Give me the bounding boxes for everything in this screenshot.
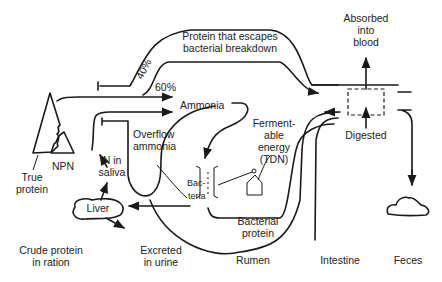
absorbed-label-3: blood	[353, 36, 379, 48]
absorbed-label-2: into	[358, 24, 375, 36]
urine-arrow	[106, 218, 124, 228]
escape-label-1: Protein that escapes	[182, 30, 278, 42]
bacteria-label-2: teria	[188, 191, 206, 201]
section-urine-1: Excreted	[140, 244, 182, 256]
absorbed-label-1: Absorbed	[344, 12, 389, 24]
bacteria-label-1: Bac-	[187, 178, 206, 188]
true-protein-label-1: True	[21, 171, 42, 183]
ammonia-to-bacteria	[205, 103, 248, 158]
bacterial-protein-label-1: Bacterial	[238, 215, 279, 227]
n-saliva-label-2: saliva	[99, 166, 126, 178]
section-ration-1: Crude protein	[19, 244, 83, 256]
escape-label-2: bacterial breakdown	[183, 42, 277, 54]
overflow-label-2: ammonia	[133, 140, 176, 152]
section-intestine: Intestine	[320, 254, 360, 266]
section-rumen: Rumen	[236, 254, 270, 266]
liver-to-saliva-arrow	[101, 183, 107, 200]
fermentable-label-2: able	[264, 129, 284, 141]
overflow-label-1: Overflow	[133, 128, 175, 140]
pct-60-label: 60%	[155, 81, 176, 93]
feces-icon	[387, 197, 428, 215]
true-protein-label-2: protein	[16, 183, 48, 195]
section-feces: Feces	[394, 254, 423, 266]
digested-label: Digested	[345, 129, 387, 141]
overflow-pointer	[157, 165, 187, 198]
ruminant-protein-diagram: Protein that escapes bacterial breakdown…	[0, 0, 442, 282]
fermentable-label-3: energy	[258, 141, 291, 153]
bacterial-protein-label-2: protein	[242, 227, 274, 239]
true-protein-icon	[33, 93, 60, 170]
fermentable-label-4: (TDN)	[260, 153, 289, 165]
ammonia-label: Ammonia	[180, 99, 225, 111]
pct-40-label: 40%	[133, 57, 153, 81]
liver-label: Liver	[87, 202, 110, 214]
section-ration-2: in ration	[32, 256, 70, 268]
fermentable-label-1: Ferment-	[253, 117, 296, 129]
n-saliva-label-1: N in	[103, 154, 122, 166]
npn-label: NPN	[52, 160, 74, 172]
section-urine-2: in urine	[144, 256, 179, 268]
